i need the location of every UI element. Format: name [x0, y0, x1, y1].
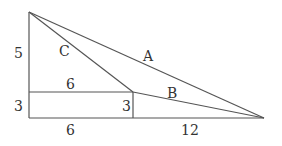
label-rect-top: 6 [66, 76, 75, 92]
segment-a-line [29, 12, 264, 118]
label-b: B [167, 85, 177, 101]
label-bottom-right: 12 [181, 122, 199, 138]
label-left-lower: 3 [14, 98, 23, 114]
label-left-upper: 5 [14, 45, 23, 61]
geometry-diagram: 5 3 6 6 3 12 A B C [0, 0, 282, 146]
segment-b-line [133, 92, 264, 118]
label-c: C [59, 43, 70, 59]
label-a: A [142, 48, 154, 64]
label-rect-right: 3 [122, 98, 131, 114]
label-rect-bottom: 6 [66, 122, 75, 138]
